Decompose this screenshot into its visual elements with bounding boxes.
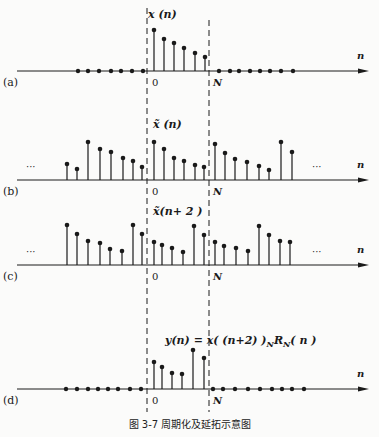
zero-sample-dot (291, 69, 295, 73)
stem-head-dot (290, 150, 295, 155)
zero-sample-dot (233, 387, 237, 391)
label-zero: 0 (152, 186, 158, 197)
title-x-tilde-n-plus-2: x̃(n+ 2 ) (152, 205, 203, 218)
arrow-icon (358, 178, 369, 183)
panel-tag-d: (d) (3, 394, 19, 407)
zero-sample-dot (141, 69, 145, 73)
stem-head-dot (140, 165, 145, 170)
zero-sample-dot (106, 387, 110, 391)
stem-head-dot (182, 159, 187, 164)
zero-sample-dot (268, 69, 272, 73)
zero-sample-dot (76, 69, 80, 73)
stem-head-dot (172, 41, 177, 46)
arrow-icon (358, 263, 369, 268)
zero-sample-dot (139, 387, 143, 391)
stem-head-dot (181, 250, 186, 255)
zero-sample-dot (279, 69, 283, 73)
zero-sample-dot (221, 387, 225, 391)
stem-head-dot (152, 240, 157, 245)
stem-head-dot (257, 224, 262, 229)
stem-head-dot (65, 162, 70, 167)
stem-head-dot (98, 147, 103, 152)
stem-head-dot (170, 246, 175, 251)
stem-head-dot (288, 240, 293, 245)
stem-head-dot (121, 156, 126, 161)
axis-label-n: n (357, 368, 364, 379)
zero-sample-dot (258, 69, 262, 73)
zero-sample-dot (116, 387, 120, 391)
zero-sample-dot (302, 387, 306, 391)
title-x-n: x (n) (147, 8, 177, 21)
zero-sample-dot (248, 69, 252, 73)
axis-label-n: n (357, 50, 364, 61)
label-zero: 0 (152, 271, 158, 282)
stem-head-dot (191, 348, 196, 353)
label-N: N (212, 271, 223, 282)
stem-head-dot (234, 246, 239, 251)
stem-head-dot (202, 165, 207, 170)
label-N: N (212, 395, 223, 406)
stem-head-dot (202, 356, 207, 361)
label-zero: 0 (152, 395, 158, 406)
figure-caption: 图 3-7 周期化及延拓示意图 (129, 418, 252, 430)
stem-head-dot (120, 249, 125, 254)
stem-head-dot (98, 241, 103, 246)
stem-head-dot (108, 247, 113, 252)
stem-head-dot (170, 371, 175, 376)
stem-head-dot (131, 159, 136, 164)
zero-sample-dot (97, 69, 101, 73)
stem-plots: n(a)0Nn(b)0N······n(c)0N······n(d)0Nx (n… (0, 0, 379, 437)
arrow-icon (358, 69, 369, 74)
zero-sample-dot (130, 69, 134, 73)
ellipsis-right: ··· (312, 161, 322, 172)
stem-head-dot (213, 240, 218, 245)
zero-sample-dot (96, 387, 100, 391)
stem-head-dot (160, 365, 165, 370)
arrow-icon (358, 387, 369, 392)
zero-sample-dot (217, 69, 221, 73)
stem-head-dot (202, 233, 207, 238)
stem-head-dot (192, 224, 197, 229)
stem-head-dot (109, 150, 114, 155)
zero-sample-dot (75, 387, 79, 391)
axis-label-n: n (357, 244, 364, 255)
zero-sample-dot (280, 387, 284, 391)
stem-head-dot (279, 140, 284, 145)
zero-sample-dot (246, 387, 250, 391)
stem-head-dot (65, 223, 70, 228)
zero-sample-dot (258, 387, 262, 391)
ellipsis-left: ··· (26, 246, 36, 257)
stem-head-dot (278, 239, 283, 244)
ellipsis-right: ··· (312, 246, 322, 257)
zero-sample-dot (237, 69, 241, 73)
stem-head-dot (75, 167, 80, 172)
zero-sample-dot (109, 69, 113, 73)
ellipsis-left: ··· (26, 161, 36, 172)
stem-head-dot (162, 37, 167, 42)
label-N: N (212, 77, 223, 88)
stem-head-dot (267, 233, 272, 238)
stem-head-dot (193, 51, 198, 56)
zero-sample-dot (119, 69, 123, 73)
zero-sample-dot (86, 69, 90, 73)
stem-head-dot (162, 147, 167, 152)
stem-head-dot (86, 140, 91, 145)
title-x-tilde-n: x̃ (n) (152, 118, 182, 131)
panel-tag-b: (b) (3, 185, 19, 198)
stem-head-dot (246, 249, 251, 254)
zero-sample-dot (128, 387, 132, 391)
stem-head-dot (152, 140, 157, 145)
zero-sample-dot (211, 387, 215, 391)
stem-head-dot (152, 28, 157, 33)
periodization-figure: n(a)0Nn(b)0N······n(c)0N······n(d)0Nx (n… (0, 0, 379, 437)
label-N: N (212, 186, 223, 197)
stem-head-dot (131, 223, 136, 228)
stem-head-dot (203, 55, 208, 60)
title-y-n: y(n) = x( (n+2) )NRN( n ) (164, 334, 316, 349)
stem-head-dot (267, 168, 272, 173)
stem-head-dot (75, 232, 80, 237)
zero-sample-dot (86, 387, 90, 391)
stem-head-dot (172, 156, 177, 161)
stem-head-dot (140, 232, 145, 237)
stem-head-dot (152, 360, 157, 365)
